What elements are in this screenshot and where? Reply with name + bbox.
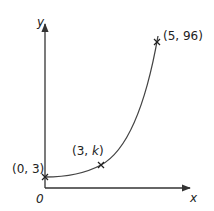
graph-canvas: y x 0 (0, 3) (3, k) (5, 96) bbox=[0, 0, 214, 211]
y-axis-label: y bbox=[36, 15, 45, 29]
point-label-3-k: (3, k) bbox=[72, 144, 104, 158]
point-label-0-3: (0, 3) bbox=[12, 162, 44, 176]
point-marker-3-k bbox=[98, 162, 104, 168]
origin-label: 0 bbox=[36, 192, 44, 206]
point-label-5-96: (5, 96) bbox=[163, 29, 203, 43]
x-axis-label: x bbox=[189, 191, 198, 205]
